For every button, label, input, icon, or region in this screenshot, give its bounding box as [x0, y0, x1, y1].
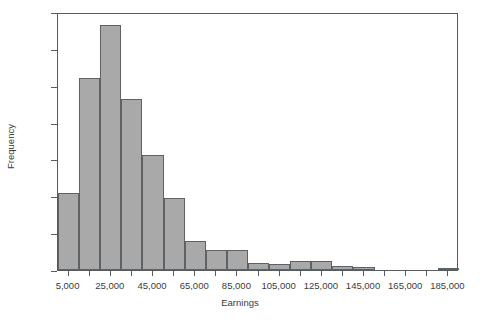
x-tick-mark — [68, 271, 69, 276]
histogram-bar — [79, 78, 100, 270]
x-tick-mark — [215, 271, 216, 276]
histogram-bar — [290, 261, 311, 270]
histogram-bar — [332, 266, 353, 270]
histogram-bar — [142, 155, 163, 270]
x-tick-mark — [258, 271, 259, 276]
x-tick-label: 145,000 — [346, 280, 380, 291]
histogram-bar — [438, 268, 459, 270]
x-tick-label: 165,000 — [388, 280, 422, 291]
x-tick-mark — [405, 271, 406, 276]
x-axis-label: Earnings — [0, 297, 480, 308]
x-tick-mark — [173, 271, 174, 276]
histogram-bar — [121, 99, 142, 270]
x-tick-mark — [152, 271, 153, 276]
x-tick-mark — [131, 271, 132, 276]
x-tick-label: 45,000 — [137, 280, 166, 291]
x-tick-mark — [342, 271, 343, 276]
histogram-bar — [206, 250, 227, 270]
histogram-bars — [58, 14, 457, 270]
histogram-bar — [248, 263, 269, 270]
x-tick-mark — [194, 271, 195, 276]
x-tick-label: 5,000 — [56, 280, 80, 291]
histogram-bar — [185, 241, 206, 270]
x-tick-mark — [89, 271, 90, 276]
x-tick-mark — [447, 271, 448, 276]
plot-area — [57, 13, 458, 271]
y-tick-mark — [51, 271, 57, 272]
x-tick-mark — [321, 271, 322, 276]
histogram-bar — [58, 193, 79, 270]
x-tick-label: 185,000 — [430, 280, 464, 291]
histogram-figure: Frequency 050100150200250300350 5,00025,… — [0, 0, 480, 324]
x-tick-mark — [426, 271, 427, 276]
x-tick-mark — [236, 271, 237, 276]
x-tick-label: 65,000 — [180, 280, 209, 291]
histogram-bar — [164, 198, 185, 270]
x-tick-mark — [279, 271, 280, 276]
x-tick-mark — [363, 271, 364, 276]
histogram-bar — [353, 267, 374, 270]
x-tick-label: 25,000 — [95, 280, 124, 291]
histogram-bar — [269, 264, 290, 270]
x-tick-mark — [384, 271, 385, 276]
y-axis-label: Frequency — [5, 124, 16, 169]
x-tick-mark — [300, 271, 301, 276]
x-tick-label: 85,000 — [222, 280, 251, 291]
x-tick-mark — [110, 271, 111, 276]
histogram-bar — [311, 261, 332, 270]
x-tick-label: 125,000 — [304, 280, 338, 291]
histogram-bar — [100, 25, 121, 270]
histogram-bar — [227, 250, 248, 270]
x-tick-label: 105,000 — [261, 280, 295, 291]
